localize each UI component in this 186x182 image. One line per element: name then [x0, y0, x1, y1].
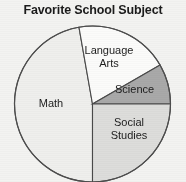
pie-label-language-arts-line1: Language — [78, 44, 140, 57]
pie-label-social-studies-line1: Social — [100, 116, 158, 129]
pie-label-science: Science — [115, 83, 173, 96]
pie-chart-figure: Favorite School Subject Lang — [0, 0, 186, 182]
pie-label-math: Math — [26, 97, 76, 110]
pie-label-language-arts: Language Arts — [78, 44, 140, 69]
pie-label-social-studies: Social Studies — [100, 116, 158, 141]
pie-label-social-studies-line2: Studies — [100, 129, 158, 142]
pie-label-language-arts-line2: Arts — [78, 57, 140, 70]
